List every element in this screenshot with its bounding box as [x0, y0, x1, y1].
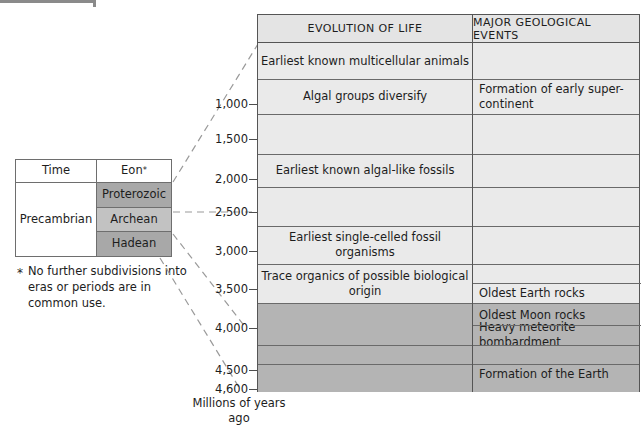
row-separator-4000 — [258, 303, 639, 304]
axis-tick-label-4000: 4,000 — [215, 321, 248, 335]
row-separator-4500 — [258, 345, 639, 346]
geology-event-supercontinent: Formation of early super-continent — [473, 79, 640, 114]
axis-tick-label-1500: 1,500 — [215, 132, 248, 146]
column-header-eon: Eon* — [96, 159, 172, 183]
axis-tick-label-3000: 3,000 — [215, 244, 248, 258]
eon-summary-table: Time Eon* Precambrian Proterozoic Archea… — [15, 159, 172, 257]
page-rule-fragment-tick — [93, 0, 96, 7]
axis-tick-label-4600: 4,600 — [215, 382, 248, 396]
axis-tick-label-1000: 1,000 — [215, 97, 248, 111]
geology-event-meteorite-bombardment: Heavy meteorite bombardment — [473, 325, 640, 345]
chart-header-row: EVOLUTION OF LIFE MAJOR GEOLOGICAL EVENT… — [258, 15, 639, 43]
axis-tick-label-3500: 3,500 — [215, 282, 248, 296]
row-separator-1500 — [258, 114, 639, 115]
time-cell-precambrian: Precambrian — [15, 182, 97, 257]
axis-caption: Millions of years ago — [185, 396, 293, 426]
axis-tick-label-2000: 2,000 — [215, 172, 248, 186]
figure-root: Time Eon* Precambrian Proterozoic Archea… — [0, 0, 644, 435]
row-separator-1000 — [258, 79, 639, 80]
timescale-chart: EVOLUTION OF LIFE MAJOR GEOLOGICAL EVENT… — [257, 14, 640, 392]
row-separator-2500 — [258, 187, 639, 188]
chart-body: Earliest known multicellular animals Alg… — [258, 43, 639, 392]
row-separator-4600 — [258, 364, 639, 365]
row-separator-3500 — [258, 264, 639, 265]
geology-event-formation-of-earth: Formation of the Earth — [473, 364, 640, 384]
chart-header-evolution-of-life: EVOLUTION OF LIFE — [258, 15, 472, 42]
footnote-marker-icon: * — [143, 166, 147, 176]
time-axis: 1,000 1,500 2,000 2,500 3,000 3,500 4,00… — [196, 40, 258, 390]
footnote-asterisk: * — [17, 265, 23, 282]
column-header-time: Time — [15, 159, 97, 183]
page-rule-fragment — [0, 0, 96, 3]
life-event-algal-like-fossils: Earliest known algal-like fossils — [258, 154, 472, 187]
chart-column-divider — [472, 43, 473, 392]
life-event-algal-groups-diversify: Algal groups diversify — [258, 79, 472, 114]
footnote-text: No further subdivisions into eras or per… — [17, 264, 197, 312]
eon-cell-proterozoic: Proterozoic — [96, 182, 172, 208]
footnote: * No further subdivisions into eras or p… — [17, 264, 197, 312]
life-event-multicellular-animals: Earliest known multicellular animals — [258, 43, 472, 79]
column-header-eon-label: Eon — [121, 164, 143, 177]
eon-cell-hadean: Hadean — [96, 231, 172, 257]
eon-cell-archean: Archean — [96, 207, 172, 232]
row-separator-oldest-earth-rocks — [472, 283, 641, 284]
chart-header-major-geological-events: MAJOR GEOLOGICAL EVENTS — [472, 15, 640, 42]
row-separator-2000 — [258, 154, 639, 155]
life-event-single-celled-organisms: Earliest single-celled fossil organisms — [258, 226, 472, 264]
row-separator-moon-rocks — [472, 325, 641, 326]
row-separator-3000 — [258, 226, 639, 227]
geology-event-oldest-earth-rocks: Oldest Earth rocks — [473, 283, 640, 303]
axis-tick-label-4500: 4,500 — [215, 363, 248, 377]
life-event-trace-organics: Trace organics of possible biological or… — [258, 264, 472, 303]
axis-tick-label-2500: 2,500 — [215, 205, 248, 219]
